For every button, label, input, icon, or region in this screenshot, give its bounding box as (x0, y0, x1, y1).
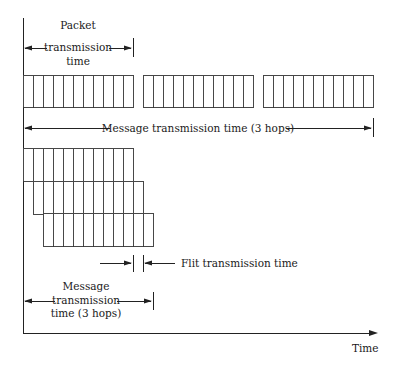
message-time-wh-annotation: Message transmission time (3 hops) (24, 280, 153, 319)
flit-cell (363, 75, 373, 107)
flit-cell (323, 75, 333, 107)
packet-3 (263, 75, 373, 107)
arrow-right-icon (144, 299, 152, 304)
flit-cell (93, 148, 103, 181)
packet-transmission-time-annotation: Packet transmission time (24, 19, 133, 67)
flit-cell (313, 75, 323, 107)
flit-cell (113, 75, 123, 107)
flit-cell (133, 181, 143, 214)
flit-cell (33, 148, 43, 181)
store-and-forward-packets (23, 75, 373, 107)
flit-cell (43, 75, 53, 107)
switching-timing-diagram: Time Packet transmission time Message tr… (0, 0, 395, 368)
arrow-right-icon (124, 46, 132, 51)
flit-cell (333, 75, 343, 107)
flit-cell (113, 148, 123, 181)
flit-cell (183, 75, 193, 107)
flit-cell (83, 213, 93, 246)
flit-cell (93, 213, 103, 246)
flit-cell (143, 75, 153, 107)
packet-time-label-line3: time (66, 55, 90, 67)
flit-cell (223, 75, 233, 107)
hop-row-3 (43, 213, 153, 246)
flit-cell (63, 148, 73, 181)
flit-cell (53, 75, 63, 107)
message-time-sf-label: Message transmission time (3 hops) (102, 122, 294, 134)
arrow-left-icon (24, 299, 32, 304)
flit-cell (103, 148, 113, 181)
flit-cell (133, 213, 143, 246)
wormhole-flit-rows (23, 148, 153, 246)
flit-cell (303, 75, 313, 107)
flit-cell (73, 181, 83, 214)
flit-cell (33, 75, 43, 107)
flit-cell (73, 213, 83, 246)
flit-cell (273, 75, 283, 107)
x-axis-arrowhead-icon (369, 330, 378, 336)
flit-cell (123, 181, 133, 214)
flit-cell (93, 75, 103, 107)
flit-cell (83, 75, 93, 107)
packet-time-label-line2: transmission (44, 41, 112, 53)
message-time-wh-label-line3: time (3 hops) (51, 307, 122, 319)
arrow-right-icon (364, 126, 372, 131)
flit-time-annotation: Flit transmission time (100, 255, 298, 272)
flit-cell (23, 148, 33, 181)
flit-cell (123, 75, 133, 107)
flit-cell (163, 75, 173, 107)
flit-cell (293, 75, 303, 107)
flit-cell (113, 213, 123, 246)
message-time-sf-annotation: Message transmission time (3 hops) (24, 118, 373, 137)
flit-cell (233, 75, 243, 107)
flit-cell (43, 213, 53, 246)
flit-cell (103, 75, 113, 107)
packet-time-label-line1: Packet (60, 19, 96, 31)
flit-cell (43, 148, 53, 181)
packet-1 (23, 75, 133, 107)
flit-cell (83, 181, 93, 214)
packet-2 (143, 75, 253, 107)
flit-cell (243, 75, 253, 107)
flit-cell (63, 213, 73, 246)
flit-cell (113, 181, 123, 214)
flit-cell (63, 75, 73, 107)
flit-cell (173, 75, 183, 107)
flit-cell (73, 148, 83, 181)
flit-cell (343, 75, 353, 107)
flit-cell (23, 75, 33, 107)
flit-cell (103, 213, 113, 246)
arrow-left-icon (24, 46, 32, 51)
flit-cell (53, 213, 63, 246)
flit-cell (263, 75, 273, 107)
flit-time-label: Flit transmission time (181, 257, 298, 269)
flit-cell (73, 75, 83, 107)
flit-cell (53, 181, 63, 214)
arrow-left-icon (144, 261, 152, 266)
flit-cell (53, 148, 63, 181)
x-axis-label: Time (352, 342, 379, 354)
flit-cell (123, 213, 133, 246)
hop-row-2 (33, 181, 143, 214)
flit-cell (63, 181, 73, 214)
flit-cell (93, 181, 103, 214)
flit-cell (123, 148, 133, 181)
message-time-wh-label-line2: transmission (52, 294, 120, 306)
message-time-wh-label-line1: Message (63, 280, 110, 292)
hop-row-1 (23, 148, 133, 181)
flit-cell (143, 213, 153, 246)
flit-cell (153, 75, 163, 107)
flit-cell (83, 148, 93, 181)
flit-cell (33, 181, 43, 214)
flit-cell (103, 181, 113, 214)
flit-cell (203, 75, 213, 107)
flit-cell (353, 75, 363, 107)
flit-cell (43, 181, 53, 214)
arrow-right-icon (124, 261, 132, 266)
flit-cell (193, 75, 203, 107)
flit-cell (213, 75, 223, 107)
arrow-left-icon (24, 126, 32, 131)
flit-cell (283, 75, 293, 107)
